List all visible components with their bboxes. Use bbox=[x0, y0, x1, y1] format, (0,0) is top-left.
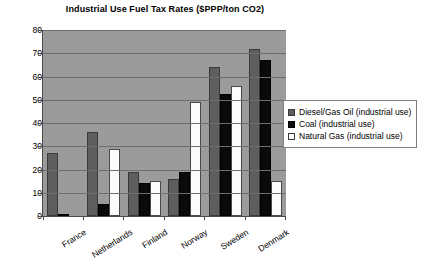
bar bbox=[249, 49, 260, 216]
x-tick-label-text: Denmark bbox=[256, 227, 291, 254]
legend-swatch-icon bbox=[288, 109, 295, 116]
bar bbox=[87, 132, 98, 216]
gridline bbox=[43, 193, 286, 194]
chart-legend: Diesel/Gas Oil (industrial use)Coal (ind… bbox=[283, 100, 417, 148]
legend-swatch-icon bbox=[288, 133, 295, 140]
gridline bbox=[43, 123, 286, 124]
bar bbox=[231, 86, 242, 216]
y-tick-label: 40 bbox=[6, 118, 42, 128]
bar bbox=[98, 204, 109, 216]
bar bbox=[179, 172, 190, 216]
y-tick-label: 10 bbox=[6, 188, 42, 198]
bar bbox=[47, 153, 58, 216]
legend-label: Natural Gas (industrial use) bbox=[299, 131, 402, 141]
gridline bbox=[43, 100, 286, 101]
legend-item[interactable]: Diesel/Gas Oil (industrial use) bbox=[288, 107, 411, 117]
plot-area bbox=[42, 30, 286, 217]
gridline bbox=[43, 146, 286, 147]
y-tick-label: 70 bbox=[6, 48, 42, 58]
y-tick-label: 0 bbox=[6, 211, 42, 221]
bar bbox=[271, 181, 282, 216]
x-tick-label: Sweden bbox=[204, 221, 245, 239]
x-tick-label: Finland bbox=[123, 221, 164, 239]
chart-container: Industrial Use Fuel Tax Rates ($PPP/ton … bbox=[0, 0, 441, 277]
y-tick-label: 60 bbox=[6, 72, 42, 82]
gridline bbox=[43, 30, 286, 31]
gridline bbox=[43, 170, 286, 171]
y-axis: 80706050403020100 bbox=[0, 30, 42, 217]
chart-title: Industrial Use Fuel Tax Rates ($PPP/ton … bbox=[0, 4, 330, 14]
gridline bbox=[43, 77, 286, 78]
bar bbox=[220, 94, 231, 216]
bar bbox=[109, 149, 120, 216]
bar bbox=[128, 172, 139, 216]
x-tick-label: Denmark bbox=[245, 221, 286, 239]
bar bbox=[150, 181, 161, 216]
x-tick-label: France bbox=[42, 221, 83, 239]
legend-swatch-icon bbox=[288, 121, 295, 128]
legend-label: Coal (industrial use) bbox=[299, 119, 375, 129]
bar bbox=[139, 183, 150, 216]
x-axis-labels: FranceNetherlandsFinlandNorwaySwedenDenm… bbox=[42, 217, 285, 272]
legend-item[interactable]: Coal (industrial use) bbox=[288, 119, 411, 129]
x-tick-label: Netherlands bbox=[83, 221, 124, 239]
x-tick-label: Norway bbox=[164, 221, 205, 239]
y-tick-label: 80 bbox=[6, 25, 42, 35]
y-tick-label: 50 bbox=[6, 95, 42, 105]
bar bbox=[58, 214, 69, 216]
legend-item[interactable]: Natural Gas (industrial use) bbox=[288, 131, 411, 141]
bar bbox=[190, 102, 201, 216]
gridline bbox=[43, 53, 286, 54]
legend-label: Diesel/Gas Oil (industrial use) bbox=[299, 107, 411, 117]
x-tick-mark bbox=[285, 216, 286, 220]
bar bbox=[168, 179, 179, 216]
y-tick-label: 20 bbox=[6, 165, 42, 175]
y-tick-label: 30 bbox=[6, 141, 42, 151]
